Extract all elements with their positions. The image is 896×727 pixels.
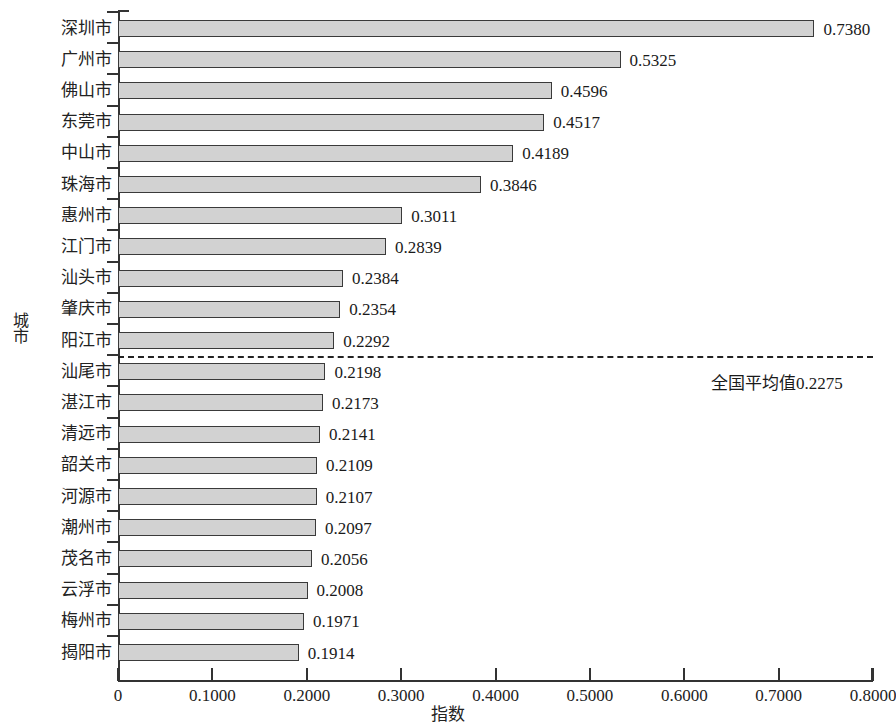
y-axis-category-label: 潮州市: [20, 519, 112, 537]
y-axis-tick: [107, 541, 119, 543]
x-axis-tick: [306, 668, 308, 681]
bar: [118, 394, 323, 411]
y-axis-tick: [107, 573, 119, 575]
y-axis-category-label: 佛山市: [20, 82, 112, 100]
y-axis-tick: [107, 136, 119, 138]
bar: [118, 426, 320, 443]
bar-value-label: 0.2384: [352, 270, 399, 287]
bar-value-label: 0.2292: [343, 333, 390, 350]
bar-value-label: 0.4517: [553, 114, 600, 131]
bar: [118, 613, 304, 630]
national-average-reference-line: [118, 356, 873, 358]
y-axis-tick: [107, 385, 119, 387]
y-axis-category-label: 梅州市: [20, 612, 112, 630]
x-axis-title: 指数: [0, 700, 895, 725]
y-axis-tick: [107, 479, 119, 481]
y-axis-category-label: 惠州市: [20, 207, 112, 225]
y-axis-category-label: 清远市: [20, 425, 112, 443]
bar-value-label: 0.2198: [334, 364, 381, 381]
x-axis-tick: [211, 668, 213, 681]
y-axis-category-label: 东莞市: [20, 113, 112, 131]
y-axis-tick: [107, 417, 119, 419]
y-axis-category-label: 广州市: [20, 51, 112, 69]
y-axis-category-label: 汕头市: [20, 269, 112, 287]
bar-value-label: 0.4189: [522, 145, 569, 162]
y-axis-tick: [107, 229, 119, 231]
y-axis-tick: [107, 292, 119, 294]
y-axis-category-label: 江门市: [20, 238, 112, 256]
y-axis-category-label: 肇庆市: [20, 300, 112, 318]
y-axis-tick: [107, 198, 119, 200]
bar-value-label: 0.2109: [326, 457, 373, 474]
bar: [118, 363, 325, 380]
bar: [118, 82, 552, 99]
y-axis-category-label: 深圳市: [20, 20, 112, 38]
y-axis-tick: [107, 604, 119, 606]
y-axis-tick: [107, 323, 119, 325]
y-axis-category-label: 汕尾市: [20, 363, 112, 381]
bar: [118, 238, 386, 255]
bar: [118, 457, 317, 474]
bar-value-label: 0.3846: [490, 177, 537, 194]
bar: [118, 301, 340, 318]
y-axis-tick: [107, 73, 119, 75]
bar: [118, 644, 299, 661]
bar: [118, 20, 814, 37]
y-axis-category-label: 珠海市: [20, 176, 112, 194]
y-axis-tick: [107, 11, 119, 13]
bar-value-label: 0.1914: [308, 645, 355, 662]
y-axis-tick: [107, 510, 119, 512]
x-axis-tick: [589, 668, 591, 681]
bar: [118, 519, 316, 536]
y-axis-category-labels: 深圳市广州市佛山市东莞市中山市珠海市惠州市江门市汕头市肇庆市阳江市汕尾市湛江市清…: [20, 10, 112, 682]
y-axis-category-label: 揭阳市: [20, 644, 112, 662]
bar-value-label: 0.2839: [395, 239, 442, 256]
bar-value-label: 0.2141: [329, 426, 376, 443]
y-axis-tick: [107, 167, 119, 169]
bar: [118, 550, 312, 567]
plot-area: 00.10000.20000.30000.40000.50000.60000.7…: [118, 10, 873, 682]
bar-value-label: 0.2008: [317, 582, 364, 599]
bar: [118, 582, 308, 599]
bar-value-label: 0.2056: [321, 551, 368, 568]
x-axis-tick: [872, 668, 874, 681]
y-axis-category-label: 阳江市: [20, 332, 112, 350]
bar: [118, 145, 513, 162]
bar-value-label: 0.5325: [630, 52, 677, 69]
y-axis-tick: [107, 635, 119, 637]
bar: [118, 51, 621, 68]
x-axis-tick: [117, 668, 119, 681]
bar: [118, 332, 334, 349]
y-axis-category-label: 韶关市: [20, 456, 112, 474]
bar: [118, 270, 343, 287]
bar-value-label: 0.4596: [561, 83, 608, 100]
bar-value-label: 0.1971: [313, 613, 360, 630]
bar: [118, 114, 544, 131]
bar-value-label: 0.2097: [325, 520, 372, 537]
x-axis-tick: [495, 668, 497, 681]
bar: [118, 176, 481, 193]
y-axis-category-label: 湛江市: [20, 394, 112, 412]
x-axis-tick: [778, 668, 780, 681]
y-axis-category-label: 云浮市: [20, 581, 112, 599]
y-axis-category-label: 河源市: [20, 488, 112, 506]
y-axis-tick: [107, 42, 119, 44]
y-axis-tick: [107, 448, 119, 450]
national-average-label: 全国平均值0.2275: [711, 369, 843, 394]
bar-value-label: 0.2107: [326, 489, 373, 506]
y-axis-category-label: 茂名市: [20, 550, 112, 568]
bar-value-label: 0.2354: [349, 301, 396, 318]
x-axis-tick: [400, 668, 402, 681]
bar-value-label: 0.3011: [411, 208, 457, 225]
bar: [118, 207, 402, 224]
bar-value-label: 0.2173: [332, 395, 379, 412]
y-axis-tick: [107, 261, 119, 263]
bar-value-label: 0.7380: [823, 21, 870, 38]
y-axis-tick: [107, 105, 119, 107]
y-axis-top-cap: [118, 10, 129, 12]
y-axis-category-label: 中山市: [20, 144, 112, 162]
bar: [118, 488, 317, 505]
x-axis-tick: [683, 668, 685, 681]
